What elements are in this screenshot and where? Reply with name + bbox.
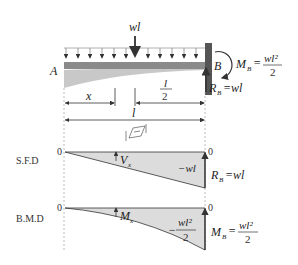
moment-sub: B	[247, 65, 252, 73]
beam	[64, 62, 205, 69]
moment-den: 2	[270, 66, 276, 78]
cantilever-diagram: wl A B M B = wl² 2 R B =wl x l 2 l S.F.D…	[0, 0, 298, 265]
bmd-zero-left: 0	[57, 202, 62, 213]
bmd-moment-sub: B	[222, 233, 227, 241]
end-a-label: A	[49, 64, 58, 78]
sfd-end-value: −wl	[178, 162, 196, 174]
shear-element-icon	[126, 124, 146, 141]
dim-half-den: 2	[162, 90, 168, 102]
dim-half-num: l	[164, 77, 167, 89]
dim-x-label: x	[85, 89, 92, 103]
eq: =	[253, 56, 261, 70]
bmd-end-den: 2	[183, 231, 189, 243]
moment-num: wl²	[264, 52, 278, 64]
reaction-label: R	[208, 81, 217, 95]
sfd-zero-right: 0	[208, 146, 213, 157]
end-b-label: B	[214, 59, 222, 73]
bmd-end-num: wl²	[178, 216, 192, 228]
bmd-area	[65, 208, 205, 250]
reaction-sub: B	[217, 89, 222, 97]
deflection-curve	[64, 68, 205, 88]
dim-total-label: l	[132, 106, 136, 120]
bmd-label: B.M.D	[16, 213, 44, 224]
sfd-reaction-value: =wl	[225, 168, 245, 182]
sfd-label: S.F.D	[16, 155, 39, 166]
sfd-zero-left: 0	[57, 146, 62, 157]
load-label: wl	[129, 20, 141, 34]
bmd-moment-num: wl²	[239, 219, 253, 231]
moment-label: M	[235, 57, 247, 71]
bmd-moment-label: M	[210, 225, 222, 239]
eq2: =	[228, 224, 236, 238]
reaction-value: =wl	[223, 81, 243, 95]
bmd-zero-right: 0	[208, 202, 213, 213]
sfd-reaction-label: R	[210, 168, 219, 182]
bmd-moment-den: 2	[245, 233, 251, 245]
bmd-end-prefix: −	[168, 223, 176, 237]
sfd-reaction-sub: B	[219, 176, 224, 184]
